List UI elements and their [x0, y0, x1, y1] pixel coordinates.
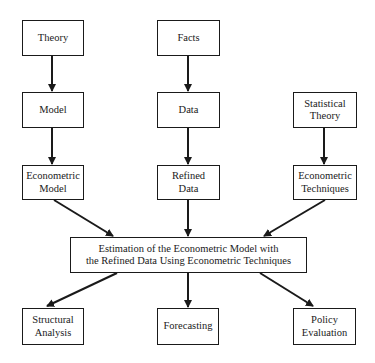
node-statistical-theory: Statistical Theory [293, 92, 357, 128]
node-label: Statistical Theory [304, 98, 345, 123]
node-label: Estimation of the Econometric Model with… [86, 243, 291, 268]
node-label: Theory [38, 32, 68, 45]
node-econometric-techniques: Econometric Techniques [293, 165, 357, 200]
arrow-econtech-estimation [264, 200, 325, 236]
node-label: Policy Evaluation [302, 314, 348, 339]
node-forecasting: Forecasting [157, 308, 219, 345]
node-theory: Theory [22, 20, 84, 56]
node-model: Model [22, 92, 84, 128]
node-estimation: Estimation of the Econometric Model with… [70, 237, 307, 273]
node-label: Forecasting [164, 320, 213, 333]
node-policy-evaluation: Policy Evaluation [293, 308, 356, 345]
node-label: Econometric Techniques [298, 170, 352, 195]
node-label: Structural Analysis [32, 314, 73, 339]
node-label: Facts [177, 32, 199, 45]
node-data: Data [157, 92, 220, 128]
node-facts: Facts [157, 20, 220, 56]
node-label: Data [179, 104, 199, 117]
arrow-econmodel-estimation [54, 200, 113, 236]
arrow-estimation-structural [47, 273, 117, 306]
node-structural-analysis: Structural Analysis [22, 308, 84, 345]
node-refined-data: Refined Data [157, 165, 220, 200]
arrow-estimation-policy [260, 273, 313, 306]
node-label: Model [39, 104, 66, 117]
node-label: Refined Data [172, 170, 205, 195]
node-label: Econometric Model [26, 170, 80, 195]
node-econometric-model: Econometric Model [22, 165, 84, 200]
